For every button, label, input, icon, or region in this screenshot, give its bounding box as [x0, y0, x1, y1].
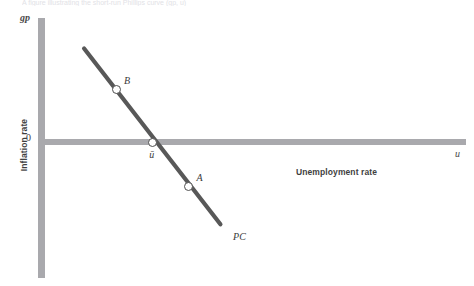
curve-layer: [0, 0, 474, 286]
data-point-label-b: B: [124, 75, 130, 86]
curve-series-label: PC: [233, 231, 246, 242]
natural-rate-label: ū: [149, 149, 154, 160]
phillips-curve-line: [84, 49, 220, 225]
phillips-curve-figure: A figure illustrating the short-run Phil…: [0, 0, 474, 286]
data-point-label-a: A: [196, 172, 202, 183]
data-point-marker: [148, 138, 157, 147]
data-point-marker: [112, 85, 121, 94]
